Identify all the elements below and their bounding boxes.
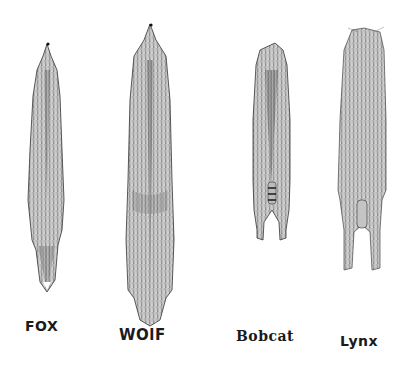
lynx-pelt xyxy=(338,27,386,270)
pelt-drawings xyxy=(0,0,402,367)
wolf-pelt xyxy=(126,23,174,326)
lynx-tail xyxy=(357,200,367,228)
bobcat-tail xyxy=(268,182,276,204)
label-lynx: Lynx xyxy=(340,333,378,349)
label-fox: FOX xyxy=(25,318,58,334)
fox-pelt xyxy=(28,42,64,292)
pelt-illustration: FOX WOlF Bobcat Lynx xyxy=(0,0,402,367)
label-bobcat: Bobcat xyxy=(236,328,294,344)
label-wolf: WOlF xyxy=(119,326,166,344)
bobcat-pelt xyxy=(253,43,290,240)
